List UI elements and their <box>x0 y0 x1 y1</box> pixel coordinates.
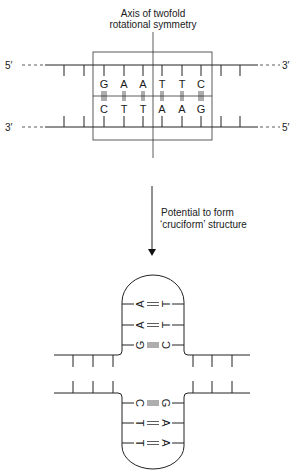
svg-text:A: A <box>158 103 166 115</box>
arrow-down-icon <box>148 249 156 256</box>
svg-text:C: C <box>134 399 146 407</box>
bottom-strand-left-end: 3′ <box>5 122 13 133</box>
svg-text:A: A <box>160 419 172 427</box>
svg-text:G: G <box>134 341 146 350</box>
svg-text:A: A <box>134 321 146 329</box>
svg-text:T: T <box>134 440 146 447</box>
top-strand-right-end: 3′ <box>282 60 290 71</box>
svg-text:T: T <box>179 78 186 90</box>
arrow-label-line2: ‘cruciform’ structure <box>160 219 247 230</box>
svg-text:T: T <box>159 78 166 90</box>
lower-loop-bases: C G T A T A <box>134 399 172 448</box>
cruciform-diagram: Axis of twofold rotational symmetry 5′ 3… <box>0 0 300 472</box>
cruciform-outline <box>54 275 250 469</box>
svg-text:G: G <box>100 78 109 90</box>
svg-text:A: A <box>120 78 128 90</box>
svg-text:C: C <box>160 341 172 349</box>
svg-text:A: A <box>139 78 147 90</box>
svg-text:C: C <box>100 103 108 115</box>
svg-text:T: T <box>134 420 146 427</box>
upper-loop-bases: A T A T G C <box>134 300 172 350</box>
svg-text:T: T <box>160 321 172 328</box>
svg-text:T: T <box>121 103 128 115</box>
top-bases: G A A T T C <box>100 78 205 90</box>
axis-label-line2: rotational symmetry <box>109 19 196 30</box>
bottom-strand-ticks <box>64 116 240 127</box>
svg-text:C: C <box>197 78 205 90</box>
svg-text:T: T <box>140 103 147 115</box>
bottom-strand-right-end: 5′ <box>282 122 290 133</box>
top-strand-ticks <box>64 65 240 76</box>
svg-text:G: G <box>160 399 172 408</box>
svg-text:A: A <box>178 103 186 115</box>
svg-text:A: A <box>160 439 172 447</box>
axis-label-line1: Axis of twofold <box>121 8 185 19</box>
top-strand-left-end: 5′ <box>5 60 13 71</box>
svg-text:G: G <box>197 103 206 115</box>
svg-text:T: T <box>160 300 172 307</box>
loop-bonds <box>147 303 159 445</box>
arrow-label-line1: Potential to form <box>161 207 234 218</box>
svg-text:A: A <box>134 300 146 308</box>
